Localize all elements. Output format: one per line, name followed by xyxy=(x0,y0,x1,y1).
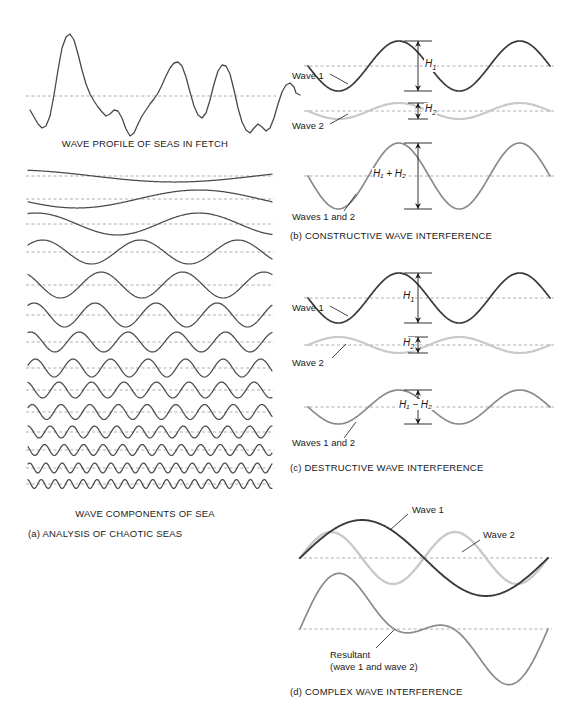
panel-c-wave1-label: Wave 1 xyxy=(292,302,324,313)
panel-b-combined-leader xyxy=(344,194,356,211)
chaotic-wave-profile xyxy=(30,34,300,136)
panel-d-wave2-label: Wave 2 xyxy=(483,529,515,540)
panel-b-wave2-label: Wave 2 xyxy=(292,120,324,131)
wave-interference-figure: WAVE PROFILE OF SEAS IN FETCH WAVE COMPO… xyxy=(0,0,562,726)
panel-b-h1-dimension: H1 xyxy=(424,58,437,72)
panel-c-wave1-leader xyxy=(330,306,348,316)
panel-c-combined-label: Waves 1 and 2 xyxy=(292,437,355,448)
panel-d-resultant-label: Resultant (wave 1 and wave 2) xyxy=(330,649,418,673)
panel-c-wave2-leader xyxy=(332,344,346,358)
panel-c-h2-dimension: H2 xyxy=(402,337,415,351)
panel-b-caption: (b) CONSTRUCTIVE WAVE INTERFERENCE xyxy=(290,230,492,241)
panel-destructive-wave-interference: Wave 1 Wave 2 Waves 1 and 2 H1 H2 H₁ − H… xyxy=(290,252,562,492)
panel-c-combined-leader xyxy=(344,422,356,438)
panel-b-wave1-leader xyxy=(330,74,348,84)
panel-b-wave1-label: Wave 1 xyxy=(292,70,324,81)
panel-c-caption: (c) DESTRUCTIVE WAVE INTERFERENCE xyxy=(290,462,483,473)
panel-d-resultant-line2: (wave 1 and wave 2) xyxy=(330,661,418,673)
panel-b-sum-dimension: H₁ + H₂ xyxy=(372,168,407,179)
panel-d-resultant-line1: Resultant xyxy=(330,649,418,661)
panel-c-graphic xyxy=(290,252,562,484)
panel-analysis-of-chaotic-seas: WAVE PROFILE OF SEAS IN FETCH WAVE COMPO… xyxy=(0,0,290,560)
panel-d-graphic xyxy=(290,496,562,706)
wave-components-caption: WAVE COMPONENTS OF SEA xyxy=(0,508,290,519)
panel-d-wave1-label: Wave 1 xyxy=(412,504,444,515)
panel-c-h1-dimension: H1 xyxy=(402,290,415,304)
panel-a-caption: (a) ANALYSIS OF CHAOTIC SEAS xyxy=(28,528,182,539)
panel-c-difference-dimension: H₁ − H₂ xyxy=(398,399,433,410)
panel-complex-wave-interference: Wave 1 Wave 2 Resultant (wave 1 and wave… xyxy=(290,496,562,726)
wave-profile-caption: WAVE PROFILE OF SEAS IN FETCH xyxy=(0,138,290,149)
panel-b-graphic xyxy=(290,8,562,240)
panel-c-wave2-label: Wave 2 xyxy=(292,357,324,368)
panel-d-wave1-leader xyxy=(390,514,408,530)
panel-d-caption: (d) COMPLEX WAVE INTERFERENCE xyxy=(290,686,463,697)
panel-b-h2-dimension: H2 xyxy=(424,103,437,117)
panel-d-resultant-leader xyxy=(376,630,394,648)
panel-constructive-wave-interference: Wave 1 Wave 2 Waves 1 and 2 H1 H2 H₁ + H… xyxy=(290,8,562,248)
panel-b-combined-label: Waves 1 and 2 xyxy=(292,211,355,222)
panel-a-graphic xyxy=(0,0,290,560)
